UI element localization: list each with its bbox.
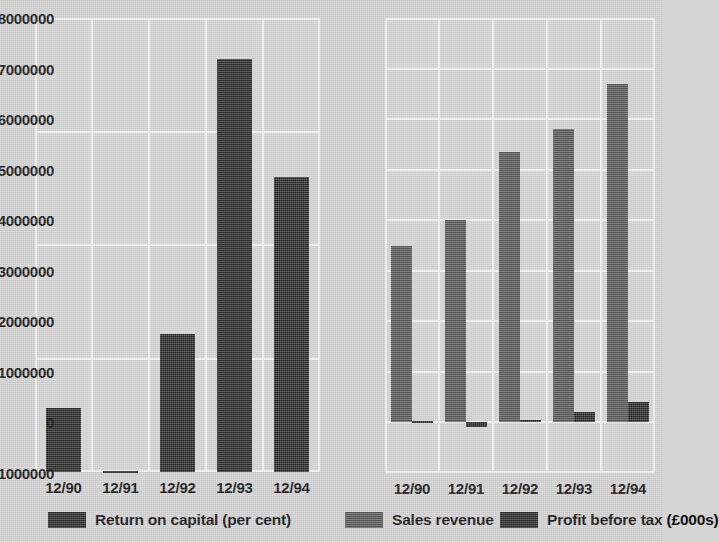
- legend-label-sales-revenue: Sales revenue: [392, 511, 494, 529]
- bar: [520, 420, 541, 422]
- y-tick-label: 7000000: [0, 60, 54, 77]
- x-tick-label: 12/90: [45, 479, 82, 496]
- gridline-y: [35, 131, 320, 133]
- chart-legend: Return on capital (per cent) Sales reven…: [0, 500, 662, 542]
- legend-swatch-return-on-capital: [48, 512, 86, 528]
- bar: [160, 334, 194, 472]
- y-tick-label: 2000000: [0, 313, 54, 330]
- bar: [466, 422, 487, 427]
- legend-item-sales-revenue: Sales revenue: [345, 511, 494, 529]
- plot-area-right: [385, 18, 655, 473]
- gridline-x: [205, 18, 207, 472]
- bar: [607, 84, 628, 423]
- bar: [499, 152, 520, 422]
- x-tick-label: 12/90: [394, 480, 431, 497]
- gridline-y: [385, 68, 655, 70]
- x-tick-label: 12/91: [102, 479, 139, 496]
- bar: [391, 246, 412, 423]
- y-tick-label: 4000000: [0, 212, 54, 229]
- y-tick-label: 5000000: [0, 161, 54, 178]
- y-tick-label: 6000000: [0, 111, 54, 128]
- gridline-x: [262, 18, 264, 472]
- y-tick-label: 8000000: [0, 10, 54, 27]
- x-tick-label: 12/91: [448, 480, 485, 497]
- legend-label-return-on-capital: Return on capital (per cent): [95, 511, 291, 529]
- bar: [628, 402, 649, 422]
- bar: [445, 220, 466, 422]
- y-tick-label: -1000000: [0, 465, 54, 482]
- plot-area-left: [35, 18, 320, 472]
- y-tick-label: 0: [46, 414, 54, 431]
- bar: [274, 177, 308, 472]
- x-tick-label: 12/92: [159, 479, 196, 496]
- bar: [412, 421, 433, 423]
- legend-item-profit-before-tax: Profit before tax (£000s): [500, 511, 719, 529]
- gridline-x: [148, 18, 150, 472]
- y-tick-label: 3000000: [0, 262, 54, 279]
- bar: [574, 412, 595, 422]
- legend-swatch-profit-before-tax: [500, 512, 538, 528]
- charts-container: 05101520 12/9012/9112/9212/9312/94 -1000…: [0, 0, 662, 500]
- x-tick-label: 12/94: [273, 479, 310, 496]
- legend-item-return-on-capital: Return on capital (per cent): [48, 511, 291, 529]
- x-tick-label: 12/93: [216, 479, 253, 496]
- bar: [217, 59, 251, 472]
- x-tick-label: 12/93: [556, 480, 593, 497]
- gridline-x: [91, 18, 93, 472]
- legend-label-profit-before-tax: Profit before tax (£000s): [547, 511, 719, 529]
- bar: [553, 129, 574, 422]
- gridline-x: [492, 18, 494, 473]
- chart-sales-and-profit: -100000001000000200000030000004000000500…: [331, 0, 662, 500]
- gridline-x: [600, 18, 602, 473]
- legend-swatch-sales-revenue: [345, 512, 383, 528]
- x-tick-label: 12/94: [610, 480, 647, 497]
- gridline-x: [438, 18, 440, 473]
- gridline-x: [546, 18, 548, 473]
- bar: [103, 471, 137, 473]
- y-tick-label: 1000000: [0, 363, 54, 380]
- x-tick-label: 12/92: [502, 480, 539, 497]
